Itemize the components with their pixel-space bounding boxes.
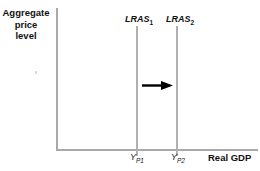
rightward-shift-arrow-icon [142,81,173,90]
lras-2-curve [176,26,178,156]
lras-1-curve [136,26,138,156]
lras-1-label-subscript: 1 [149,19,153,26]
lras-1-label-base: LRAS [125,14,150,24]
x-tick-yp1-subscript: P1 [136,157,144,164]
lras-shift-diagram: Aggregate price level Real GDP LRAS1 LRA… [0,0,260,171]
y-axis-title: Aggregate price level [0,7,52,42]
x-axis-title: Real GDP [208,152,251,163]
x-tick-label-yp2: YP2 [171,152,185,164]
lras-1-label: LRAS1 [125,14,153,26]
y-axis-title-line-3: level [0,30,52,42]
y-axis-title-line-2: price [0,19,52,31]
y-axis-title-line-1: Aggregate [0,7,52,19]
x-axis-line [56,149,258,151]
lras-2-label: LRAS2 [166,14,194,26]
x-tick-yp2-subscript: P2 [177,157,185,164]
lras-2-label-base: LRAS [166,14,191,24]
scan-speck [35,71,37,74]
lras-2-label-subscript: 2 [190,19,194,26]
x-tick-label-yp1: YP1 [130,152,144,164]
y-axis-line [56,8,58,151]
